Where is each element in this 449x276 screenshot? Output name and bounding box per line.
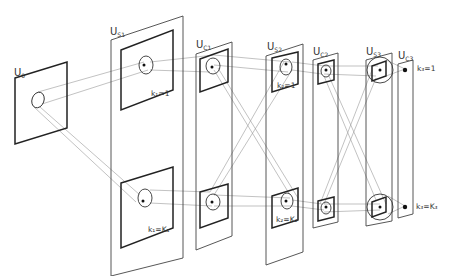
plane-uc2-last <box>318 197 334 221</box>
plane-label-k2-first: k₂=1 <box>277 81 296 90</box>
neocognitron-diagram: U0 US1 k₁=1 k₁=K₁ UC1 US2 k₂=1 <box>0 0 449 276</box>
plane-label-k1-last: k₁=K₁ <box>148 225 170 234</box>
plane-label-k2-last: k₂=K₂ <box>276 215 298 224</box>
layer-us1: US1 k₁=1 k₁=K₁ <box>110 16 183 276</box>
plane-us1-k1-last <box>121 167 173 248</box>
plane-label-k3-last: k₃=K₃ <box>416 202 438 211</box>
receptive-field-circle <box>30 90 47 109</box>
layer-us3: US3 <box>366 46 393 226</box>
plane-label-k3-first: k₃=1 <box>417 64 436 73</box>
connections <box>34 55 405 214</box>
layer-uc3: UC3 k₃=1 k₃=K₃ <box>398 50 438 218</box>
plane-us1-k1-first <box>121 30 173 110</box>
layer-u0: U0 <box>14 62 67 144</box>
layer-us2: US2 k₂=1 k₂=K₂ <box>266 41 303 265</box>
plane-label-k1-first: k₁=1 <box>151 89 170 98</box>
layer-uc1: UC1 <box>196 39 232 250</box>
output-cell-k3-first <box>403 68 407 72</box>
output-cell-k3-last <box>403 205 407 209</box>
